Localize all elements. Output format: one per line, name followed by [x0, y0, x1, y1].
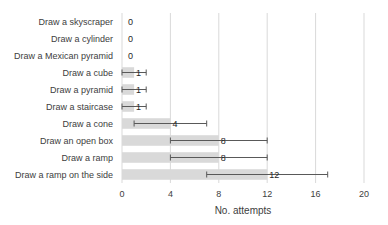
category-label: Draw a ramp on the side [15, 170, 113, 180]
category-label: Draw a cube [62, 68, 113, 78]
x-axis-title: No. attempts [215, 205, 272, 216]
data-label: 1 [136, 68, 141, 78]
category-label: Draw a Mexican pyramid [14, 51, 113, 61]
x-tick-label: 12 [262, 189, 272, 199]
category-label: Draw an open box [40, 136, 114, 146]
data-label: 8 [221, 136, 226, 146]
category-label: Draw a skyscraper [38, 17, 113, 27]
category-label: Draw a cylinder [51, 34, 113, 44]
data-label: 0 [128, 34, 133, 44]
x-tick-labels: 048121620 [119, 189, 369, 199]
category-label: Draw a ramp [61, 153, 113, 163]
bar-chart: Draw a skyscraperDraw a cylinderDraw a M… [0, 0, 388, 225]
data-label: 0 [128, 51, 133, 61]
category-label: Draw a staircase [46, 102, 113, 112]
category-label: Draw a pyramid [50, 85, 113, 95]
x-tick-label: 8 [216, 189, 221, 199]
category-labels: Draw a skyscraperDraw a cylinderDraw a M… [14, 17, 114, 180]
x-tick-label: 16 [311, 189, 321, 199]
data-label: 1 [136, 102, 141, 112]
data-label: 0 [128, 17, 133, 27]
x-tick-label: 20 [359, 189, 369, 199]
category-label: Draw a cone [62, 119, 113, 129]
data-label: 8 [221, 153, 226, 163]
data-label: 12 [269, 170, 279, 180]
data-label: 4 [172, 119, 177, 129]
data-label: 1 [136, 85, 141, 95]
x-tick-label: 4 [168, 189, 173, 199]
x-tick-label: 0 [119, 189, 124, 199]
